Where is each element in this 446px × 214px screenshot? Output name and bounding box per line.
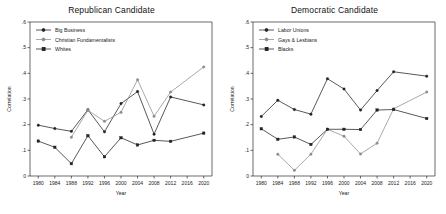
series-marker xyxy=(87,134,90,137)
y-tick-label: .4 xyxy=(245,70,249,76)
series-marker xyxy=(310,113,313,116)
series-marker xyxy=(103,131,106,134)
figure-two-panel-line-charts: Republican Candidate0.1.2.3.4.5.61980198… xyxy=(0,0,446,214)
x-axis-ticks: 1980198419881992199620002004200820122016… xyxy=(256,176,433,186)
series-marker xyxy=(293,108,296,111)
series-line xyxy=(261,110,426,145)
y-axis-ticks: 0.1.2.3.4.5.6 xyxy=(22,19,30,179)
series-marker xyxy=(277,99,280,102)
legend-label: Big Business xyxy=(55,27,85,33)
series-marker xyxy=(359,153,362,156)
data-series xyxy=(260,108,428,145)
y-tick-label: .5 xyxy=(245,44,249,50)
y-tick-label: .6 xyxy=(245,19,249,25)
series-marker xyxy=(37,124,40,127)
series-marker xyxy=(425,117,428,120)
y-axis-ticks: 0.1.2.3.4.5.6 xyxy=(245,19,253,179)
x-tick-label: 2008 xyxy=(372,180,383,186)
chart-panel: Republican Candidate0.1.2.3.4.5.61980198… xyxy=(0,0,223,214)
legend-label: Labor Unions xyxy=(278,27,309,33)
series-marker xyxy=(103,120,106,123)
x-tick-label: 2012 xyxy=(165,180,176,186)
y-tick-label: .1 xyxy=(22,147,26,153)
x-tick-label: 1992 xyxy=(305,180,316,186)
series-marker xyxy=(343,88,346,91)
series-marker xyxy=(54,146,57,149)
y-tick-label: 0 xyxy=(246,173,249,179)
series-line xyxy=(71,67,203,137)
series-marker xyxy=(343,128,346,131)
series-marker xyxy=(87,109,90,112)
x-tick-label: 2008 xyxy=(149,180,160,186)
series-marker xyxy=(70,136,73,139)
y-tick-label: .1 xyxy=(245,147,249,153)
x-axis-ticks: 1980198419881992199620002004200820122016… xyxy=(33,176,210,186)
series-marker xyxy=(136,90,139,93)
x-tick-label: 1992 xyxy=(82,180,93,186)
series-marker xyxy=(293,136,296,139)
x-tick-label: 2004 xyxy=(132,180,143,186)
x-tick-label: 2000 xyxy=(115,180,126,186)
y-tick-label: .2 xyxy=(22,121,26,127)
series-marker xyxy=(120,137,123,140)
y-tick-label: .3 xyxy=(22,96,26,102)
x-tick-label: 1988 xyxy=(66,180,77,186)
y-axis-title: Correlation xyxy=(229,86,235,111)
y-tick-label: .4 xyxy=(22,70,26,76)
x-tick-label: 1980 xyxy=(256,180,267,186)
series-marker xyxy=(260,115,263,118)
legend-label: Christian Fundamentalists xyxy=(55,37,115,43)
legend-label: Whites xyxy=(55,46,71,52)
series-marker xyxy=(343,135,346,138)
data-series xyxy=(260,71,428,118)
x-tick-label: 2016 xyxy=(182,180,193,186)
series-marker xyxy=(277,138,280,141)
x-axis-title: Year xyxy=(116,190,127,196)
plot-area: 0.1.2.3.4.5.6198019841988199219962000200… xyxy=(0,0,223,214)
series-marker xyxy=(169,96,172,99)
data-series xyxy=(70,66,205,139)
x-tick-label: 1980 xyxy=(33,180,44,186)
chart-panel: Democratic Candidate0.1.2.3.4.5.61980198… xyxy=(223,0,446,214)
series-marker xyxy=(202,66,205,69)
x-axis-title: Year xyxy=(339,190,350,196)
x-tick-label: 1996 xyxy=(99,180,110,186)
series-marker xyxy=(153,115,156,118)
legend-label: Gays & Lesbians xyxy=(278,37,318,43)
series-line xyxy=(278,92,427,170)
series-marker xyxy=(310,153,313,156)
x-tick-label: 2020 xyxy=(198,180,209,186)
y-tick-label: .2 xyxy=(245,121,249,127)
series-marker xyxy=(293,169,296,172)
x-tick-label: 2016 xyxy=(405,180,416,186)
x-tick-label: 2012 xyxy=(388,180,399,186)
series-marker xyxy=(425,91,428,94)
series-marker xyxy=(326,128,329,131)
series-marker xyxy=(202,104,205,107)
legend-label: Blacks xyxy=(278,46,294,52)
series-marker xyxy=(103,156,106,159)
x-tick-label: 1996 xyxy=(322,180,333,186)
series-marker xyxy=(153,139,156,142)
series-marker xyxy=(202,132,205,135)
x-tick-label: 1984 xyxy=(272,180,283,186)
series-marker xyxy=(70,162,73,165)
x-tick-label: 2004 xyxy=(355,180,366,186)
series-marker xyxy=(310,143,313,146)
y-tick-label: .6 xyxy=(22,19,26,25)
series-marker xyxy=(376,142,379,145)
legend: Big BusinessChristian FundamentalistsWhi… xyxy=(32,23,127,56)
series-marker xyxy=(392,71,395,74)
data-series xyxy=(37,132,205,165)
x-tick-label: 1988 xyxy=(289,180,300,186)
series-marker xyxy=(120,111,123,114)
series-marker xyxy=(37,140,40,143)
y-axis-title: Correlation xyxy=(6,86,12,111)
series-marker xyxy=(136,79,139,82)
series-marker xyxy=(54,127,57,130)
series-marker xyxy=(120,102,123,105)
series-marker xyxy=(169,140,172,143)
plot-area: 0.1.2.3.4.5.6198019841988199219962000200… xyxy=(223,0,446,214)
series-marker xyxy=(425,75,428,78)
x-tick-label: 2020 xyxy=(421,180,432,186)
